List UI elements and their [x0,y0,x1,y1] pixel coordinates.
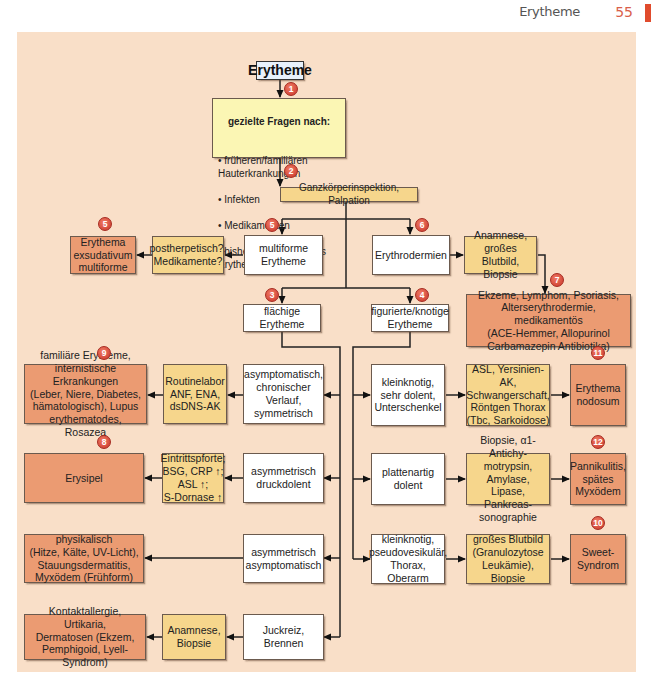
step-badge-2: 2 [284,164,298,178]
node-asl-yersinien: ASL, Yersinien-AK, Schwangerschaft, Rönt… [466,364,550,426]
step-badge-5: 5 [265,218,279,232]
node-multiforme-erytheme: multiforme Erytheme [244,235,323,275]
step-badge-10: 10 [591,516,605,530]
questions-box: gezielte Fragen nach: früheren/familiäre… [212,98,346,158]
node-flaechige-erytheme: flächige Erytheme [243,304,321,332]
step-badge-5-left: 5 [98,217,112,231]
node-erysipel: Erysipel [24,453,144,503]
step-badge-3: 3 [265,288,279,302]
node-routinelabor: Routinelabor ANF, ENA, dsDNS-AK [163,364,227,424]
question-item: Medikamenten [218,219,340,232]
step-badge-6: 6 [415,218,429,232]
node-asymptomatisch-chronisch: asymptomatisch, chronischer Verlauf, sym… [243,364,324,424]
step-badge-11: 11 [591,346,605,360]
node-sweet-syndrom: Sweet- Syndrom [570,534,626,584]
root-node-erytheme: Erytheme [256,61,304,80]
node-postherpetisch: postherpetisch?, Medikamente? [152,236,224,274]
node-eintrittspforte: Eintrittspforte; BSG, CRP ↑; ASL ↑; S-Do… [162,453,224,503]
node-kontaktallergie: Kontaktallergie, Urtikaria, Dermatosen (… [24,614,146,660]
question-item: früheren/familiären Hauterkrankungen [218,154,340,180]
step-badge-12: 12 [591,435,605,449]
step-badge-4: 4 [415,288,429,302]
step-badge-1: 1 [284,82,298,96]
step-badge-9: 9 [97,346,111,360]
node-anamnese-biopsie: Anamnese, Biopsie [162,614,226,660]
node-biopsie-antichymotrypsin: Biopsie, α1-Antichy- motrypsin, Amylase,… [466,453,550,505]
node-erythema-exsudativum-multiforme: Erythema exsudativum multiforme [70,236,136,274]
node-anamnese-blutbild-biopsie: Anamnese, großes Blutbild, Biopsie [464,236,537,274]
node-erythrodermien: Erythrodermien [372,235,450,275]
node-kleinknotig-pseudovesikulaer: kleinknotig, pseudovesikulär, Thorax, Ob… [371,534,445,584]
node-grosses-blutbild: großes Blutbild (Granulozytose Leukämie)… [466,534,550,584]
node-familiaere-erytheme: familiäre Erytheme, internistische Erkra… [24,364,147,424]
node-asymmetrisch-asymptomatisch: asymmetrisch asymptomatisch [243,534,324,583]
node-asymmetrisch-druckdolent: asymmetrisch druckdolent [243,453,324,503]
node-ekzeme-lymphom: Ekzeme, Lymphom, Psoriasis, Alterserythr… [466,294,631,347]
node-juckreiz-brennen: Juckreiz, Brennen [243,614,324,660]
node-plattenartig-dolent: plattenartig dolent [371,453,445,505]
node-figurierte-knotige-erytheme: figurierte/knotige Erytheme [371,304,449,332]
step-badge-7: 7 [550,273,564,287]
node-pannikulitis: Pannikulitis, spätes Myxödem [570,453,626,505]
inspection-box: Ganzkörperinspektion, Palpation [280,187,418,202]
node-physikalisch: physikalisch (Hitze, Kälte, UV-Licht), S… [24,534,144,583]
node-kleinknotig-sehr-dolent: kleinknotig, sehr dolent, Unterschenkel [371,364,445,426]
node-erythema-nodosum: Erythema nodosum [570,364,626,426]
questions-heading: gezielte Fragen nach: [218,115,340,128]
step-badge-8: 8 [97,435,111,449]
